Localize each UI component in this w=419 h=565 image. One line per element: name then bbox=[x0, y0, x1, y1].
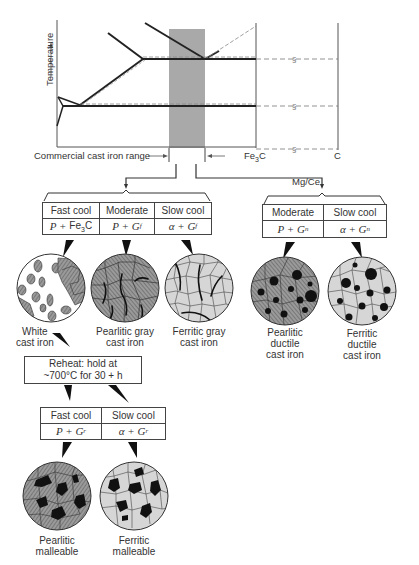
commercial-range-label: Commercial cast iron range bbox=[34, 151, 150, 161]
reheat-line-1: Reheat: hold at bbox=[25, 358, 141, 370]
caption-white-cast-iron: White cast iron bbox=[16, 326, 54, 348]
header-slow-cool: Slow cool bbox=[102, 408, 165, 424]
fe3c-label: Fe3C bbox=[244, 151, 266, 163]
white-cast-iron-micrograph bbox=[16, 254, 86, 322]
caption-ferritic-malleable: Ferritic malleable bbox=[113, 535, 156, 557]
pearlitic-ductile-micrograph bbox=[251, 257, 319, 325]
malleable-cooling-table: Fast cool Slow cool P + Gr α + Gr bbox=[40, 407, 166, 440]
header-moderate: Moderate bbox=[263, 205, 324, 221]
pearlitic-gray-micrograph bbox=[91, 254, 159, 322]
ferritic-malleable-micrograph bbox=[100, 462, 168, 530]
header-slow-cool: Slow cool bbox=[324, 205, 386, 221]
mg-ce-label: Mg/Ce bbox=[292, 177, 320, 187]
phase-p-gn: P + Gn bbox=[263, 221, 324, 237]
header-slow-cool: Slow cool bbox=[155, 203, 211, 219]
header-fast-cool: Fast cool bbox=[41, 408, 102, 424]
reheat-line-2: ~700°C for 30 + h bbox=[25, 370, 141, 382]
cast-iron-diagram: § § § bbox=[0, 0, 419, 565]
commercial-range-band bbox=[169, 29, 205, 148]
gray-white-cooling-table: Fast cool Moderate Slow cool P + Fe3C P … bbox=[42, 202, 212, 235]
svg-text:§: § bbox=[292, 145, 296, 154]
ferritic-gray-micrograph bbox=[165, 254, 233, 322]
phase-alpha-gf: α + Gf bbox=[155, 219, 211, 235]
caption-pearlitic-gray: Pearlitic gray cast iron bbox=[96, 326, 154, 348]
reheat-box: Reheat: hold at ~700°C for 30 + h bbox=[24, 356, 142, 384]
caption-pearlitic-ductile: Pearlitic ductile cast iron bbox=[266, 327, 304, 360]
svg-text:§: § bbox=[292, 102, 296, 111]
ductile-cooling-table: Moderate Slow cool P + Gn α + Gn bbox=[262, 204, 387, 238]
phase-alpha-gn: α + Gn bbox=[324, 221, 386, 237]
svg-text:§: § bbox=[292, 55, 296, 64]
diagram-graphics: § § § bbox=[0, 0, 419, 565]
carbon-label: C bbox=[334, 151, 341, 161]
pearlitic-malleable-micrograph bbox=[23, 462, 91, 530]
ferritic-ductile-micrograph bbox=[328, 257, 396, 325]
phase-alpha-gr: α + Gr bbox=[102, 424, 165, 440]
caption-pearlitic-malleable: Pearlitic malleable bbox=[36, 535, 79, 557]
caption-ferritic-ductile: Ferritic ductile cast iron bbox=[343, 328, 381, 361]
phase-diagram: § § § bbox=[49, 20, 338, 162]
header-fast-cool: Fast cool bbox=[43, 203, 100, 219]
header-moderate: Moderate bbox=[100, 203, 155, 219]
phase-p-fe3c: P + Fe3C bbox=[43, 219, 100, 235]
phase-p-gf: P + Gf bbox=[100, 219, 155, 235]
phase-p-gr: P + Gr bbox=[41, 424, 102, 440]
temperature-axis-label: Temperature bbox=[44, 33, 55, 86]
caption-ferritic-gray: Ferritic gray cast iron bbox=[173, 326, 226, 348]
